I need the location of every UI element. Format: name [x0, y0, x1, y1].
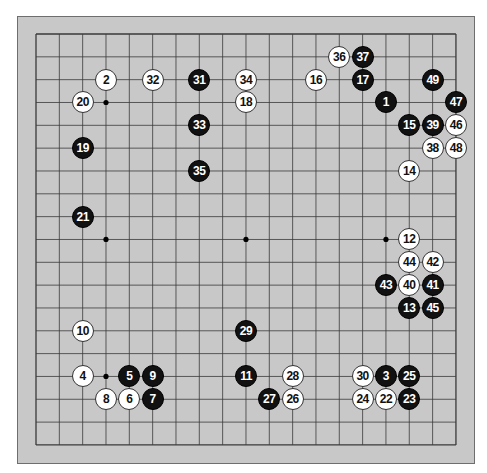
- white-stone: 20: [72, 91, 94, 113]
- white-stone: 48: [445, 137, 467, 159]
- move-number: 43: [380, 278, 392, 292]
- white-stone: 32: [142, 69, 164, 91]
- white-stone: 26: [282, 388, 304, 410]
- move-number: 27: [263, 392, 275, 406]
- move-number: 42: [426, 255, 438, 269]
- white-stone: 34: [235, 69, 257, 91]
- black-stone: 15: [398, 114, 420, 136]
- black-stone: 27: [258, 388, 280, 410]
- black-stone: 39: [422, 114, 444, 136]
- move-number: 18: [240, 95, 252, 109]
- move-number: 25: [403, 369, 415, 383]
- black-stone: 29: [235, 320, 257, 342]
- white-stone: 2: [95, 69, 117, 91]
- white-stone: 16: [305, 69, 327, 91]
- move-number: 17: [356, 73, 368, 87]
- white-stone: 24: [352, 388, 374, 410]
- move-number: 45: [426, 301, 438, 315]
- move-number: 19: [76, 141, 88, 155]
- move-number: 47: [450, 95, 462, 109]
- move-number: 38: [426, 141, 438, 155]
- star-point: [103, 100, 108, 105]
- black-stone: 19: [72, 137, 94, 159]
- black-stone: 1: [375, 91, 397, 113]
- move-number: 7: [150, 392, 156, 406]
- move-number: 49: [426, 73, 438, 87]
- white-stone: 42: [422, 251, 444, 273]
- move-number: 24: [356, 392, 368, 406]
- move-number: 33: [193, 118, 205, 132]
- move-number: 22: [380, 392, 392, 406]
- move-number: 31: [193, 73, 205, 87]
- move-number: 4: [80, 369, 86, 383]
- white-stone: 14: [398, 160, 420, 182]
- black-stone: 31: [188, 69, 210, 91]
- black-stone: 5: [118, 365, 140, 387]
- move-number: 2: [103, 73, 109, 87]
- move-number: 30: [356, 369, 368, 383]
- move-number: 36: [333, 50, 345, 64]
- move-number: 8: [103, 392, 109, 406]
- black-stone: 43: [375, 274, 397, 296]
- white-stone: 38: [422, 137, 444, 159]
- move-number: 5: [126, 369, 132, 383]
- move-number: 16: [310, 73, 322, 87]
- white-stone: 4: [72, 365, 94, 387]
- star-point: [103, 237, 108, 242]
- move-number: 9: [150, 369, 156, 383]
- black-stone: 33: [188, 114, 210, 136]
- move-number: 23: [403, 392, 415, 406]
- black-stone: 23: [398, 388, 420, 410]
- move-number: 13: [403, 301, 415, 315]
- move-number: 26: [286, 392, 298, 406]
- black-stone: 3: [375, 365, 397, 387]
- white-stone: 44: [398, 251, 420, 273]
- move-number: 11: [240, 369, 252, 383]
- black-stone: 35: [188, 160, 210, 182]
- white-stone: 36: [328, 46, 350, 68]
- move-number: 12: [403, 232, 415, 246]
- white-stone: 30: [352, 365, 374, 387]
- star-point: [383, 237, 388, 242]
- white-stone: 10: [72, 320, 94, 342]
- move-number: 1: [383, 95, 389, 109]
- move-number: 40: [403, 278, 415, 292]
- move-number: 37: [356, 50, 368, 64]
- move-number: 41: [426, 278, 438, 292]
- white-stone: 12: [398, 228, 420, 250]
- black-stone: 9: [142, 365, 164, 387]
- white-stone: 28: [282, 365, 304, 387]
- white-stone: 22: [375, 388, 397, 410]
- move-number: 34: [240, 73, 252, 87]
- black-stone: 37: [352, 46, 374, 68]
- move-number: 28: [286, 369, 298, 383]
- black-stone: 47: [445, 91, 467, 113]
- move-number: 44: [403, 255, 415, 269]
- white-stone: 40: [398, 274, 420, 296]
- white-stone: 6: [118, 388, 140, 410]
- move-number: 21: [76, 210, 88, 224]
- move-number: 39: [426, 118, 438, 132]
- move-number: 32: [146, 73, 158, 87]
- move-number: 46: [450, 118, 462, 132]
- black-stone: 13: [398, 297, 420, 319]
- black-stone: 41: [422, 274, 444, 296]
- move-number: 29: [240, 324, 252, 338]
- move-number: 3: [383, 369, 389, 383]
- black-stone: 25: [398, 365, 420, 387]
- white-stone: 8: [95, 388, 117, 410]
- move-number: 6: [126, 392, 132, 406]
- black-stone: 17: [352, 69, 374, 91]
- move-number: 48: [450, 141, 462, 155]
- black-stone: 45: [422, 297, 444, 319]
- move-number: 15: [403, 118, 415, 132]
- move-number: 35: [193, 164, 205, 178]
- white-stone: 46: [445, 114, 467, 136]
- move-number: 10: [76, 324, 88, 338]
- white-stone: 18: [235, 91, 257, 113]
- star-point: [103, 374, 108, 379]
- move-number: 20: [76, 95, 88, 109]
- black-stone: 21: [72, 206, 94, 228]
- black-stone: 7: [142, 388, 164, 410]
- black-stone: 11: [235, 365, 257, 387]
